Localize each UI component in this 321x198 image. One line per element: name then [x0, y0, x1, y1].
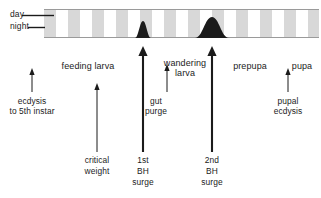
night-band [260, 9, 272, 38]
night-band [116, 9, 128, 38]
stage-label-prepupa: prepupa [233, 62, 267, 72]
stage-label-pupa: pupa [292, 62, 312, 72]
night-band [68, 9, 80, 38]
bottom-label-second-bh-surge-line1: 2nd [205, 156, 219, 165]
critical-weight-arrow-head [94, 83, 99, 90]
bottom-label-first-bh-surge-line2: BH [137, 167, 149, 176]
stage-label-wandering-larva-line2: larva [175, 69, 195, 79]
night-band [236, 9, 248, 38]
night-band [284, 9, 296, 38]
bottom-label-second-bh-surge-line2: BH [206, 167, 218, 176]
first-bh-surge-arrow-head [138, 46, 147, 56]
bottom-label-second-bh-surge-line3: surge [201, 178, 222, 187]
night-band [188, 9, 200, 38]
developmental-timeline-figure: day night feeding larva wandering larva … [0, 0, 321, 198]
event-label-gut-purge-line1: gut [150, 97, 162, 106]
bar-background [44, 9, 319, 38]
event-label-ecdysis-line2: to 5th instar [9, 107, 54, 116]
night-label: night [10, 22, 29, 31]
event-label-pupal-ecdysis-line1: pupal [278, 97, 299, 106]
night-band [92, 9, 104, 38]
day-label: day [10, 10, 24, 19]
stage-label-feeding-larva: feeding larva [62, 62, 115, 72]
event-label-ecdysis-line1: ecdysis [18, 97, 47, 106]
night-band [164, 9, 176, 38]
event-label-pupal-ecdysis-line2: ecdysis [274, 107, 303, 116]
bottom-label-critical-weight-line1: critical [85, 156, 110, 165]
second-bh-surge-arrow-head [207, 46, 216, 56]
bottom-label-first-bh-surge-line3: surge [132, 178, 153, 187]
bottom-label-first-bh-surge-line1: 1st [137, 156, 148, 165]
photoperiod-bar-group [44, 9, 319, 38]
night-band [308, 9, 319, 38]
pupal-ecdysis-arrow-head [285, 68, 290, 75]
bottom-label-critical-weight-line2: weight [85, 167, 110, 176]
night-band [44, 9, 56, 38]
ecdysis-arrow-head [29, 68, 34, 75]
event-label-gut-purge-line2: purge [145, 107, 167, 116]
